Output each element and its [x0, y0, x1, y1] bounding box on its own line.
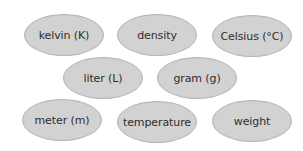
term-label: kelvin (K) — [39, 29, 90, 42]
term-label: Celsius (°C) — [220, 30, 283, 43]
term-meter: meter (m) — [22, 99, 102, 141]
term-density: density — [117, 14, 197, 56]
term-weight: weight — [212, 100, 292, 142]
term-label: meter (m) — [35, 114, 90, 127]
term-label: temperature — [123, 116, 191, 129]
term-label: liter (L) — [83, 72, 122, 85]
term-label: weight — [234, 115, 271, 128]
term-label: density — [137, 29, 177, 42]
term-celsius: Celsius (°C) — [212, 15, 292, 57]
term-liter: liter (L) — [63, 57, 143, 99]
term-label: gram (g) — [173, 72, 220, 85]
word-bank-diagram: kelvin (K) density Celsius (°C) liter (L… — [0, 0, 303, 151]
term-kelvin: kelvin (K) — [24, 14, 104, 56]
term-temperature: temperature — [117, 101, 197, 143]
term-gram: gram (g) — [157, 57, 237, 99]
